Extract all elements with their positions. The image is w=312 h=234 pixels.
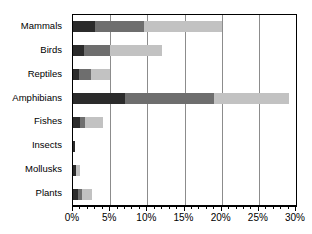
x-tick-27	[273, 206, 274, 209]
x-tick-11	[154, 206, 155, 209]
bar-birds	[73, 45, 162, 56]
bar-segment-mammals-3	[144, 21, 222, 32]
bar-segment-insects-1	[73, 141, 75, 152]
x-tick-24	[250, 206, 251, 209]
stacked-bar-chart: MammalsBirdsReptilesAmphibiansFishesInse…	[0, 0, 312, 234]
x-tick-label-20%: 20%	[211, 212, 231, 223]
bar-segment-reptiles-3	[91, 69, 110, 80]
bar-insects	[73, 141, 75, 152]
gridline-10%	[147, 15, 148, 206]
x-tick-29	[288, 206, 289, 209]
x-tick-2	[87, 206, 88, 209]
x-tick-12	[161, 206, 162, 209]
category-label-mollusks: Mollusks	[0, 164, 62, 174]
category-label-amphibians: Amphibians	[0, 93, 62, 103]
x-tick-label-15%: 15%	[173, 212, 193, 223]
x-tick-label-0%: 0%	[65, 212, 79, 223]
x-tick-22	[236, 206, 237, 209]
x-tick-1	[79, 206, 80, 209]
bar-amphibians	[73, 93, 289, 104]
x-tick-13	[169, 206, 170, 209]
x-tick-8	[131, 206, 132, 209]
x-tick-30	[295, 206, 296, 211]
bar-segment-fishes-1	[73, 117, 80, 128]
x-tick-19	[213, 206, 214, 209]
x-tick-16	[191, 206, 192, 209]
gridline-20%	[222, 15, 223, 206]
bar-segment-mollusks-3	[76, 165, 80, 176]
bar-segment-amphibians-2	[125, 93, 214, 104]
x-tick-15	[184, 206, 185, 211]
category-label-reptiles: Reptiles	[0, 69, 62, 79]
x-tick-25	[258, 206, 259, 211]
bar-segment-reptiles-2	[79, 69, 91, 80]
x-tick-14	[176, 206, 177, 209]
x-tick-7	[124, 206, 125, 209]
x-tick-label-10%: 10%	[136, 212, 156, 223]
bar-segment-plants-3	[82, 189, 92, 200]
bar-plants	[73, 189, 92, 200]
x-tick-17	[198, 206, 199, 209]
bar-segment-birds-2	[84, 45, 110, 56]
x-tick-21	[228, 206, 229, 209]
x-tick-18	[206, 206, 207, 209]
x-tick-3	[94, 206, 95, 209]
x-tick-4	[102, 206, 103, 209]
x-tick-label-5%: 5%	[102, 212, 116, 223]
bar-mammals	[73, 21, 222, 32]
bar-segment-birds-1	[73, 45, 84, 56]
category-label-mammals: Mammals	[0, 21, 62, 31]
bar-mollusks	[73, 165, 80, 176]
category-label-fishes: Fishes	[0, 116, 62, 126]
bar-segment-mammals-2	[95, 21, 143, 32]
bar-segment-fishes-3	[85, 117, 103, 128]
plot-area	[72, 14, 297, 207]
x-tick-10	[146, 206, 147, 211]
category-label-plants: Plants	[0, 188, 62, 198]
bar-reptiles	[73, 69, 110, 80]
x-tick-0	[72, 206, 73, 211]
x-tick-28	[280, 206, 281, 209]
x-tick-5	[109, 206, 110, 211]
x-tick-20	[221, 206, 222, 211]
plot-inner	[73, 15, 296, 206]
bar-segment-amphibians-1	[73, 93, 125, 104]
bar-segment-birds-3	[110, 45, 162, 56]
x-tick-9	[139, 206, 140, 209]
category-label-birds: Birds	[0, 45, 62, 55]
category-label-insects: Insects	[0, 140, 62, 150]
bar-segment-amphibians-3	[214, 93, 288, 104]
gridline-25%	[259, 15, 260, 206]
x-tick-6	[117, 206, 118, 209]
x-tick-label-30%: 30%	[285, 212, 305, 223]
gridline-15%	[185, 15, 186, 206]
x-tick-26	[265, 206, 266, 209]
bar-segment-mammals-1	[73, 21, 95, 32]
x-tick-23	[243, 206, 244, 209]
x-tick-label-25%: 25%	[248, 212, 268, 223]
bar-fishes	[73, 117, 103, 128]
category-axis-labels: MammalsBirdsReptilesAmphibiansFishesInse…	[0, 14, 66, 205]
gridline-5%	[110, 15, 111, 206]
